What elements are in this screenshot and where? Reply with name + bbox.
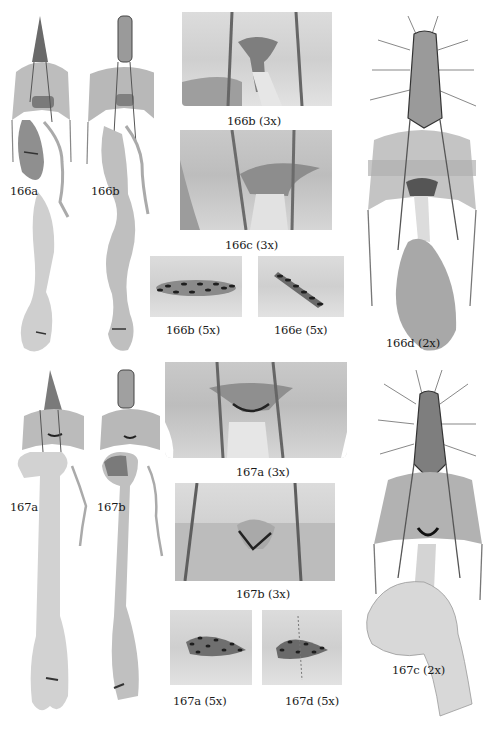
detail-167a-3x xyxy=(165,362,347,458)
signum-167d-5x xyxy=(262,610,342,685)
label-166b-5x: 166b (5x) xyxy=(166,323,220,337)
detail-166c-3x xyxy=(180,130,332,230)
label-167a-3x: 167a (3x) xyxy=(236,465,289,479)
label-167d-5x: 167d (5x) xyxy=(285,694,339,708)
signum-167d-5x-drawing xyxy=(262,610,342,685)
specimen-167b xyxy=(98,366,170,722)
label-166b: 166b xyxy=(91,184,120,198)
label-166c-3x: 166c (3x) xyxy=(225,238,278,252)
detail-166b-3x xyxy=(182,12,332,106)
detail-166c-3x-drawing xyxy=(180,130,332,230)
detail-167a-3x-drawing xyxy=(165,362,347,458)
label-167b: 167b xyxy=(97,500,126,514)
signum-167a-5x-drawing xyxy=(170,610,252,685)
signum-166e-5x xyxy=(258,256,344,317)
specimen-166d-2x-drawing xyxy=(358,10,484,355)
label-167b-3x: 167b (3x) xyxy=(236,587,290,601)
signum-167a-5x xyxy=(170,610,252,685)
label-166a: 166a xyxy=(10,184,38,198)
label-166e-5x: 166e (5x) xyxy=(274,323,327,337)
signum-166e-5x-drawing xyxy=(258,256,344,317)
label-167a: 167a xyxy=(10,500,38,514)
label-167a-5x: 167a (5x) xyxy=(173,694,226,708)
specimen-167a xyxy=(10,366,90,722)
signum-166b-5x xyxy=(150,256,242,317)
label-167c-2x: 167c (2x) xyxy=(392,663,445,677)
detail-167b-3x xyxy=(175,483,335,581)
detail-166b-3x-drawing xyxy=(182,12,332,106)
specimen-167a-drawing xyxy=(10,366,90,722)
specimen-167b-drawing xyxy=(98,366,170,722)
detail-167b-3x-drawing xyxy=(175,483,335,581)
specimen-166d-2x xyxy=(358,10,484,355)
label-166d-2x: 166d (2x) xyxy=(386,336,440,350)
signum-166b-5x-drawing xyxy=(150,256,242,317)
label-166b-3x: 166b (3x) xyxy=(227,114,281,128)
